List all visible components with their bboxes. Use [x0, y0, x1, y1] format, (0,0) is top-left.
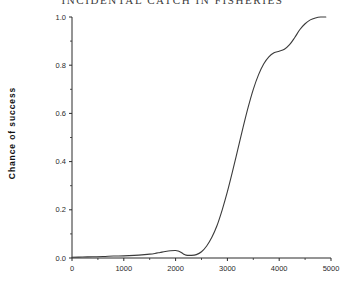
y-tick-label: 0.0	[44, 254, 66, 263]
series-line-chance-of-success	[72, 17, 326, 257]
data-series-layer	[72, 17, 326, 257]
x-tick-label: 3000	[210, 264, 244, 273]
axis-lines	[72, 17, 331, 258]
plot-area	[0, 0, 345, 288]
chart-figure: INCIDENTAL CATCH IN FISHERIES Chance of …	[0, 0, 345, 288]
x-tick-label: 1000	[107, 264, 141, 273]
x-tick-label: 4000	[262, 264, 296, 273]
x-tick-label: 2000	[159, 264, 193, 273]
x-tick-label: 5000	[314, 264, 345, 273]
y-tick-label: 1.0	[44, 13, 66, 22]
y-tick-label: 0.8	[44, 61, 66, 70]
x-tick-label: 0	[55, 264, 89, 273]
y-tick-label: 0.2	[44, 205, 66, 214]
y-tick-label: 0.4	[44, 157, 66, 166]
y-tick-label: 0.6	[44, 109, 66, 118]
